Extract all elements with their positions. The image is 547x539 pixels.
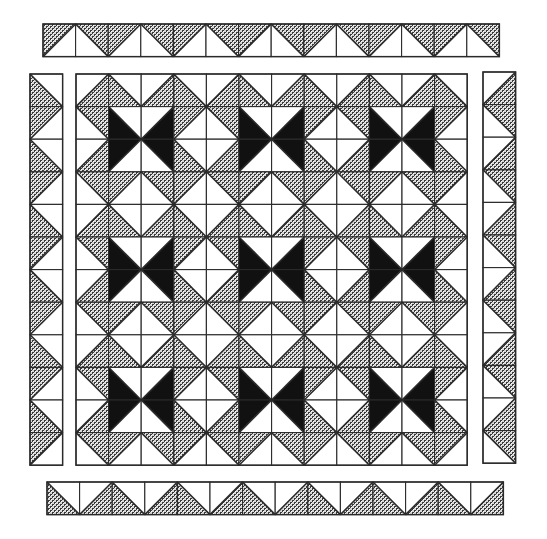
quilt-cell [174,74,207,107]
quilt-cell [141,107,174,140]
quilt-cell [369,270,402,303]
quilt-cell [206,204,239,237]
quilt-cell [272,237,305,270]
quilt-cell [369,172,402,205]
quilt-cell [76,367,109,400]
quilt-cell [76,172,109,205]
quilt-cell [402,400,435,433]
quilt-cell [435,335,468,368]
border-cell [308,482,341,515]
quilt-cell [304,237,337,270]
quilt-cell [109,367,142,400]
border-cell [336,24,369,57]
quilt-cell [272,74,305,107]
border-cell [434,24,467,57]
quilt-cell [337,204,370,237]
border-cell [483,235,516,268]
quilt-cell [141,139,174,172]
quilt-cell [174,204,207,237]
quilt-cell [304,335,337,368]
quilt-cell [402,367,435,400]
border-cell [340,482,373,515]
quilt-cell [272,172,305,205]
quilt-cell [402,302,435,335]
quilt-cell [337,172,370,205]
quilt-cell [206,270,239,303]
quilt-cell [337,74,370,107]
quilt-cell [109,270,142,303]
quilt-cell [239,204,272,237]
quilt-cell [141,204,174,237]
border-cell [483,105,516,138]
quilt-cell [109,433,142,466]
border-cell [483,431,516,464]
quilt-cell [206,433,239,466]
quilt-cell [304,74,337,107]
quilt-cell [402,237,435,270]
quilt-cell [76,204,109,237]
border-cell [275,482,308,515]
border-cell [30,400,63,433]
quilt-cell [369,433,402,466]
border-cell [47,482,80,515]
quilt-cell [304,270,337,303]
quilt-cell [435,400,468,433]
quilt-cell [206,367,239,400]
border-cell [483,202,516,235]
quilt-cell [337,335,370,368]
quilt-cell [272,107,305,140]
border-cell [145,482,178,515]
quilt-cell [76,139,109,172]
quilt-cell [369,302,402,335]
quilt-cell [272,270,305,303]
border-cell [30,302,63,335]
quilt-cell [272,302,305,335]
border-cell [76,24,109,57]
quilt-cell [109,237,142,270]
quilt-cell [369,107,402,140]
quilt-cell [174,139,207,172]
right-border-strip [483,72,516,463]
quilt-cell [402,335,435,368]
quilt-cell [206,237,239,270]
quilt-cell [369,400,402,433]
border-cell [239,24,272,57]
quilt-cell [141,270,174,303]
quilt-cell [304,107,337,140]
quilt-cell [402,172,435,205]
quilt-cell [369,367,402,400]
quilt-cell [239,270,272,303]
quilt-cell [337,302,370,335]
border-cell [30,367,63,400]
quilt-cell [435,204,468,237]
border-cell [30,74,63,107]
quilt-cell [206,335,239,368]
border-cell [373,482,406,515]
quilt-cell [435,139,468,172]
quilt-cell [109,204,142,237]
quilt-cell [435,237,468,270]
quilt-cell [304,400,337,433]
border-cell [30,237,63,270]
quilt-cell [402,107,435,140]
quilt-cell [141,74,174,107]
border-cell [304,24,337,57]
quilt-cell [239,107,272,140]
quilt-cell [174,433,207,466]
border-cell [43,24,76,57]
quilt-cell [76,400,109,433]
quilt-cell [304,139,337,172]
border-cell [483,72,516,105]
border-cell [438,482,471,515]
quilt-cell [141,172,174,205]
quilt-cell [206,107,239,140]
quilt-cell [109,139,142,172]
border-cell [271,24,304,57]
quilt-cell [206,400,239,433]
border-cell [483,365,516,398]
quilt-cell [174,237,207,270]
quilt-cell [304,367,337,400]
border-cell [402,24,435,57]
quilt-cell [239,335,272,368]
border-cell [30,139,63,172]
